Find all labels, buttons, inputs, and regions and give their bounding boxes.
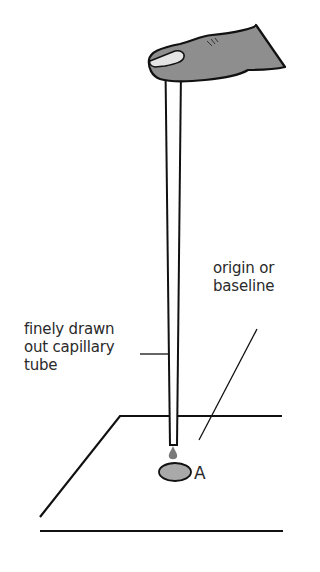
- capillary-tube-label: finely drawn out capillary tube: [24, 320, 114, 374]
- origin-label-line-2: baseline: [213, 277, 274, 295]
- capillary-tube: [165, 70, 181, 446]
- origin-pointer-line: [199, 329, 257, 440]
- capillary-label-line-3: tube: [24, 356, 114, 374]
- origin-baseline-label: origin or baseline: [213, 259, 274, 295]
- spot-label: A: [194, 464, 205, 482]
- origin-label-line-1: origin or: [213, 259, 274, 277]
- sample-spot: [159, 463, 191, 481]
- capillary-label-line-2: out capillary: [24, 338, 114, 356]
- finger-icon: [149, 25, 285, 81]
- sample-drop: [169, 446, 177, 459]
- capillary-label-line-1: finely drawn: [24, 320, 114, 338]
